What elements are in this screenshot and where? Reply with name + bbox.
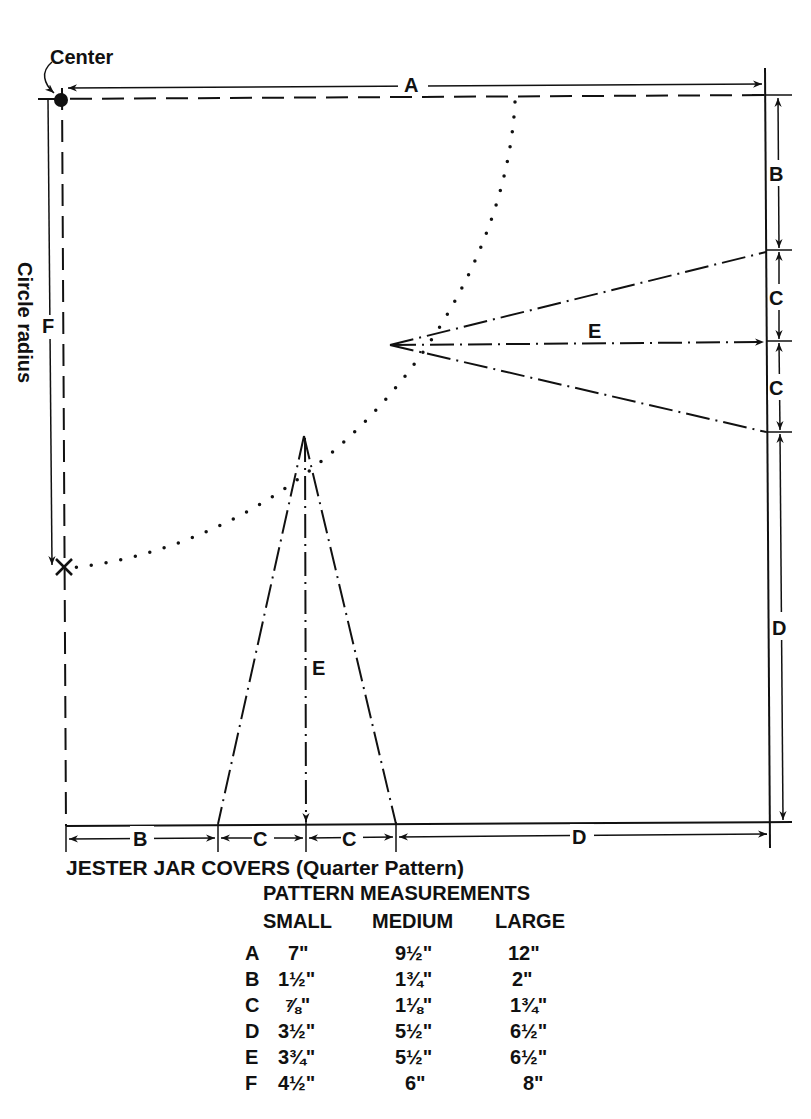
cell-small: 3½" [278, 1020, 315, 1043]
cell-medium: 5½" [395, 1046, 432, 1069]
dimension-d-bottom-label: D [572, 826, 586, 848]
center-point-icon [54, 93, 68, 107]
column-header-small: SMALL [263, 910, 332, 933]
dimension-b-right-label: B [769, 163, 783, 185]
cell-large: 1¾" [510, 994, 547, 1017]
cell-large: 2" [512, 968, 533, 991]
dimension-c-bottom-right-label: C [342, 828, 356, 850]
pattern-title: JESTER JAR COVERS (Quarter Pattern) [66, 856, 464, 880]
cell-small: 7" [288, 942, 309, 965]
row-key: F [245, 1072, 257, 1095]
cell-medium: 1⅛" [395, 994, 432, 1017]
bottom-wedge [218, 436, 396, 824]
column-header-medium: MEDIUM [372, 910, 453, 933]
cell-small: 3¾" [278, 1046, 315, 1069]
column-header-large: LARGE [495, 910, 565, 933]
dimension-c-bottom-left-label: C [253, 828, 267, 850]
cell-small: ⅞" [284, 994, 310, 1017]
cell-medium: 9½" [395, 942, 432, 965]
table-row: D 3½" 5½" 6½" [0, 1020, 811, 1046]
dimension-c-right-top-label: C [769, 287, 783, 309]
dimension-e-horizontal-line [392, 342, 764, 345]
cell-large: 6½" [510, 1046, 547, 1069]
cell-small: 4½" [278, 1072, 315, 1095]
cell-small: 1½" [278, 968, 315, 991]
center-label: Center [50, 46, 114, 68]
cell-medium: 5½" [395, 1020, 432, 1043]
dimension-e-horizontal-label: E [588, 320, 601, 342]
row-key: C [245, 994, 259, 1017]
left-edge-dashed [62, 88, 66, 826]
cell-medium: 6" [405, 1072, 426, 1095]
table-row: F 4½" 6" 8" [0, 1072, 811, 1098]
row-key: E [245, 1046, 258, 1069]
bottom-edge [66, 822, 792, 826]
table-row: A 7" 9½" 12" [0, 942, 811, 968]
table-title: PATTERN MEASUREMENTS [263, 882, 530, 905]
dimension-e-vertical-line [305, 438, 306, 822]
table-row: B 1½" 1¾" 2" [0, 968, 811, 994]
dimension-e-vertical-label: E [312, 657, 325, 679]
cell-large: 12" [508, 942, 540, 965]
table-row: C ⅞" 1⅛" 1¾" [0, 994, 811, 1020]
cell-large: 6½" [510, 1020, 547, 1043]
dimension-c-right-bottom-label: C [769, 377, 783, 399]
dimension-d-right-label: D [772, 617, 786, 639]
dimension-b-bottom-label: B [133, 828, 147, 850]
row-key: D [245, 1020, 259, 1043]
table-row: E 3¾" 5½" 6½" [0, 1046, 811, 1072]
dimension-f-label: F [42, 315, 54, 337]
quarter-circle-arc [70, 102, 515, 568]
dimension-a-label: A [404, 74, 418, 96]
row-key: B [245, 968, 259, 991]
cell-medium: 1¾" [395, 968, 432, 991]
circle-radius-label: Circle radius [14, 262, 36, 383]
cell-large: 8" [523, 1072, 544, 1095]
row-key: A [245, 942, 259, 965]
